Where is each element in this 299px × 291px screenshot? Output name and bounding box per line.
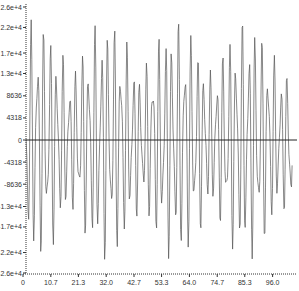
y-tick-label: 0: [18, 137, 22, 144]
y-tick-label: 8636: [6, 92, 22, 99]
x-tick-label: 85.3: [238, 279, 252, 286]
x-tick-label: 10.7: [44, 279, 58, 286]
y-tick-label: -4318: [4, 159, 22, 166]
x-tick-label: 53.3: [155, 279, 169, 286]
y-tick-label: 1.7e+4: [0, 50, 22, 57]
x-tick-label: 32.0: [99, 279, 113, 286]
y-axis-ticks: 2.6e+42.2e+41.7e+41.3e+4863643180-4318-8…: [0, 4, 26, 277]
x-axis-ticks: 010.721.332.042.753.364.074.785.396.0: [21, 274, 279, 286]
y-tick-label: -2.6e+4: [0, 270, 22, 277]
y-tick-label: 4318: [6, 114, 22, 121]
y-tick-label: -2.2e+4: [0, 249, 22, 256]
y-tick-label: -1.3e+4: [0, 203, 22, 210]
y-tick-label: -8636: [4, 181, 22, 188]
x-tick-label: 74.7: [210, 279, 224, 286]
line-chart: 2.6e+42.2e+41.7e+41.3e+4863643180-4318-8…: [0, 0, 299, 291]
x-tick-label: 21.3: [72, 279, 86, 286]
x-tick-label: 42.7: [127, 279, 141, 286]
x-tick-label: 64.0: [183, 279, 197, 286]
x-tick-label: 96.0: [266, 279, 280, 286]
y-tick-label: 1.3e+4: [0, 70, 22, 77]
y-tick-label: -1.7e+4: [0, 223, 22, 230]
y-tick-label: 2.6e+4: [0, 4, 22, 11]
y-tick-label: 2.2e+4: [0, 24, 22, 31]
x-tick-label: 0: [21, 279, 25, 286]
